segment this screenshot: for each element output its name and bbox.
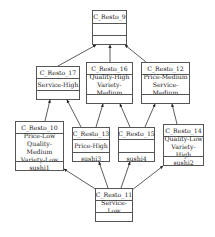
node-title-text: C_Resto_11 <box>96 191 133 199</box>
node-intent <box>119 139 154 152</box>
concept-node-c-resto-17[interactable]: C_Resto_17Service-High <box>36 66 80 100</box>
edge-c-resto-10-to-c-resto-17 <box>45 100 50 121</box>
concept-node-c-resto-14[interactable]: C_Resto_14Quality-LowVariety-Highsushi2 <box>163 124 204 166</box>
edge-c-resto-13-to-c-resto-17 <box>67 100 81 127</box>
edge-c-resto-11-to-c-resto-15 <box>121 162 130 188</box>
node-title: C_Resto_13 <box>73 128 109 139</box>
node-extent: sushi4 <box>119 152 154 165</box>
node-title-text: C_Resto_10 <box>21 124 58 132</box>
edge-c-resto-13-to-c-resto-16 <box>96 104 103 127</box>
edge-c-resto-11-to-c-resto-13 <box>99 162 108 188</box>
node-extent <box>96 212 132 225</box>
concept-node-c-resto-15[interactable]: C_Resto_15sushi4 <box>118 127 155 162</box>
node-extent-text: sushi3 <box>81 155 101 163</box>
node-title: C_Resto_9 <box>93 11 126 23</box>
node-title: C_Resto_17 <box>37 67 79 78</box>
node-title-text: C_Resto_17 <box>40 69 77 77</box>
node-intent: Service-Low <box>96 200 132 212</box>
node-intent-text: Quality-Medium <box>16 140 63 156</box>
edge-c-resto-12-to-c-resto-9 <box>125 45 146 62</box>
node-title-text: C_Resto_12 <box>147 65 184 73</box>
node-extent-text: sushi2 <box>173 159 193 167</box>
node-intent-text: Price-Medium <box>143 73 187 81</box>
edge-c-resto-11-to-c-resto-14 <box>132 166 163 190</box>
node-title-text: C_Resto_14 <box>165 127 202 135</box>
node-extent-text: sushi4 <box>126 155 146 163</box>
node-extent-text: sushi1 <box>29 164 49 172</box>
node-title-text: C_Resto_9 <box>93 13 126 21</box>
node-extent <box>93 35 126 48</box>
node-intent: Quality-HighVariety-Medium <box>87 74 132 94</box>
node-intent-text: Price-Low <box>24 132 55 140</box>
node-extent <box>87 94 132 107</box>
node-title-text: C_Resto_13 <box>73 130 110 138</box>
node-intent: Price-High <box>73 139 109 152</box>
edge-c-resto-11-to-c-resto-10 <box>64 169 97 190</box>
concept-node-c-resto-16[interactable]: C_Resto_16Quality-HighVariety-Medium <box>86 62 133 104</box>
node-title: C_Resto_15 <box>119 128 154 139</box>
concept-node-c-resto-9[interactable]: C_Resto_9 <box>92 10 127 45</box>
node-extent <box>142 94 189 107</box>
node-intent-text: Price-High <box>74 142 108 150</box>
concept-node-c-resto-11[interactable]: C_Resto_11Service-Low <box>95 188 133 222</box>
node-extent: sushi3 <box>73 152 109 165</box>
node-extent: sushi1 <box>16 161 63 174</box>
node-intent-text: Quality-High <box>89 73 129 81</box>
concept-node-c-resto-10[interactable]: C_Resto_10Price-LowQuality-MediumVariety… <box>15 121 64 171</box>
edge-c-resto-14-to-c-resto-12 <box>172 104 177 124</box>
node-intent: Price-MediumService-Medium <box>142 74 189 94</box>
node-intent: Quality-LowVariety-High <box>164 136 203 156</box>
concept-node-c-resto-13[interactable]: C_Resto_13Price-Highsushi3 <box>72 127 110 162</box>
node-intent-text: Quality-Low <box>165 135 203 143</box>
node-intent <box>93 23 126 35</box>
node-title-text: C_Resto_16 <box>91 65 128 73</box>
node-extent: sushi2 <box>164 156 203 169</box>
node-intent: Service-High <box>37 78 79 90</box>
node-extent <box>37 90 79 103</box>
concept-node-c-resto-12[interactable]: C_Resto_12Price-MediumService-Medium <box>141 62 190 104</box>
node-title-text: C_Resto_15 <box>118 130 155 138</box>
edge-c-resto-15-to-c-resto-12 <box>145 104 155 127</box>
edge-c-resto-15-to-c-resto-16 <box>120 104 130 127</box>
node-intent-text: Service-High <box>38 81 79 89</box>
node-intent: Price-LowQuality-MediumVariety-Low <box>16 133 63 161</box>
